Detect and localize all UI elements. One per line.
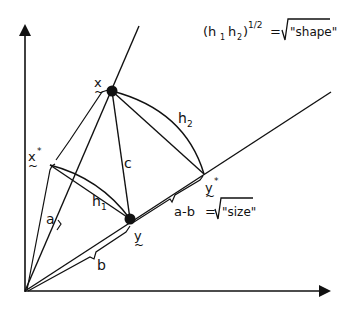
- formula-shape: (h 1 h 2 ) 1/2 = "shape": [203, 19, 337, 42]
- formula-shape-lhs: (h: [203, 24, 216, 39]
- label-c: c: [124, 155, 132, 171]
- diagram-svg: x ~ x * ~ y ~ y * ~ a b c h 1 h 2 (h 1 h…: [0, 0, 352, 314]
- horizontal-axis-arrow-icon: [319, 285, 331, 297]
- bracket-a-upper: [56, 90, 108, 160]
- formula-shape-mid: h: [228, 24, 236, 39]
- vertical-axis-arrow-icon: [19, 24, 31, 36]
- bracket-a: [27, 164, 55, 290]
- formula-shape-sub2: 2: [237, 33, 242, 42]
- tilde-x: ~: [94, 85, 104, 99]
- point-y: [125, 214, 136, 225]
- formula-shape-sub1: 1: [220, 33, 225, 42]
- bracket-a-notch: [57, 220, 61, 230]
- bracket-b: [28, 226, 130, 291]
- formula-shape-rhs: "shape": [290, 25, 337, 39]
- formula-size: a-b = "size": [174, 198, 256, 219]
- formula-size-lhs: a-b: [174, 204, 195, 219]
- label-b: b: [97, 257, 106, 273]
- tilde-x-star: ~: [28, 159, 38, 173]
- tilde-y-star: ~: [205, 189, 215, 203]
- tilde-y: ~: [134, 238, 144, 252]
- label-y-star-sup: *: [214, 176, 219, 186]
- formula-shape-exp: 1/2: [248, 20, 262, 30]
- label-a: a: [46, 211, 55, 227]
- formula-size-rhs: "size": [222, 205, 256, 219]
- segment-h1: [50, 165, 130, 219]
- formula-size-eq: =: [205, 204, 216, 219]
- label-h2-sub: 2: [187, 119, 193, 129]
- label-h1-sub: 1: [101, 202, 107, 212]
- point-x: [107, 86, 118, 97]
- geometry-diagram: x ~ x * ~ y ~ y * ~ a b c h 1 h 2 (h 1 h…: [0, 0, 352, 314]
- label-h2: h: [178, 110, 187, 126]
- label-h1: h: [92, 193, 101, 209]
- label-x-star-sup: *: [37, 146, 42, 156]
- formula-shape-eq: =: [270, 24, 281, 39]
